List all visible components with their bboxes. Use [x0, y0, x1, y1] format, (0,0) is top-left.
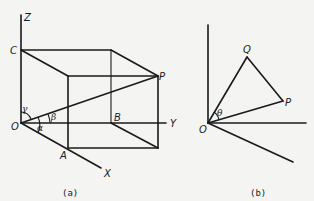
diagram-canvas: Z C P B Y O A X γ α β (a) Q P O θ (b)	[0, 0, 314, 201]
x-axis	[21, 123, 101, 168]
box-edge	[21, 50, 68, 76]
op-line	[21, 76, 158, 123]
origin-label: O	[11, 121, 19, 132]
beta-arc	[48, 114, 50, 123]
box-edge	[111, 50, 158, 76]
theta-label: θ	[217, 108, 223, 118]
point-q-label: Q	[243, 44, 251, 55]
point-p-label: P	[285, 97, 292, 108]
beta-label: β	[50, 112, 56, 122]
alpha-label: α	[37, 123, 43, 133]
qp-line	[247, 57, 283, 101]
x-axis-label: X	[103, 168, 112, 179]
box-edge	[111, 123, 158, 148]
z-axis-label: Z	[23, 12, 32, 23]
point-b-label: B	[114, 112, 121, 123]
diagonal-axis	[208, 123, 293, 162]
figure-a: Z C P B Y O A X γ α β (a)	[10, 12, 177, 198]
caption-a: (a)	[62, 188, 78, 198]
figure-b: Q P O θ (b)	[199, 25, 306, 198]
point-p-label: P	[159, 71, 166, 82]
caption-b: (b)	[250, 188, 266, 198]
point-c-label: C	[10, 45, 17, 56]
origin-label: O	[199, 124, 207, 135]
point-a-label: A	[59, 150, 67, 161]
gamma-label: γ	[22, 104, 28, 114]
y-axis-label: Y	[170, 118, 177, 129]
